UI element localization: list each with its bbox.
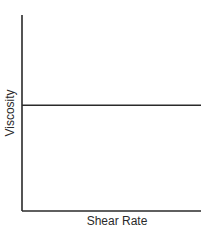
y-axis-label: Viscosity <box>3 89 17 136</box>
chart: Viscosity Shear Rate <box>0 0 204 227</box>
x-axis-label: Shear Rate <box>87 214 148 227</box>
